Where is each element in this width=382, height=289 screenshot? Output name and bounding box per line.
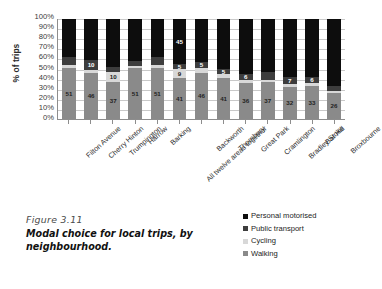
legend-label: Personal motorised [251, 212, 316, 220]
stacked-bar[interactable]: 633 [305, 19, 319, 119]
legend-swatch-icon [243, 214, 248, 219]
bar-value-label: 7 [288, 78, 291, 84]
stacked-bar[interactable]: 51 [62, 19, 76, 119]
y-tick-label: 60% [24, 53, 54, 60]
bar-segment-publict [151, 57, 165, 65]
bar-value-label: 32 [286, 100, 293, 106]
bar-value-label: 10 [88, 62, 95, 68]
stacked-bar[interactable]: 732 [283, 19, 297, 119]
chart-legend: Personal motorisedPublic transportCyclin… [243, 212, 351, 262]
bar-segment-personal [195, 19, 209, 62]
bar-slot: 455941 [168, 19, 190, 119]
bar-value-label: 41 [220, 96, 227, 102]
bar-segment-walking: 51 [62, 68, 76, 119]
bar-segment-walking: 51 [128, 68, 142, 119]
stacked-bar[interactable]: 1046 [84, 19, 98, 119]
stacked-bar[interactable]: 541 [217, 19, 231, 119]
stacked-bar[interactable]: 636 [239, 19, 253, 119]
bar-group: 511046103751514559415465416363773263326 [58, 19, 345, 119]
legend-item[interactable]: Walking [243, 250, 351, 258]
bar-segment-personal [84, 19, 98, 60]
bar-value-label: 41 [176, 96, 183, 102]
bar-segment-walking: 33 [305, 86, 319, 119]
bar-segment-personal [305, 19, 319, 77]
bar-value-label: 33 [308, 100, 315, 106]
bar-segment-personal [128, 19, 142, 61]
legend-item[interactable]: Personal motorised [243, 212, 351, 220]
bar-slot: 51 [58, 19, 80, 119]
bar-slot: 26 [323, 19, 345, 119]
bar-value-label: 51 [66, 91, 73, 97]
bar-segment-walking: 41 [173, 78, 187, 119]
bar-segment-publict [261, 72, 275, 80]
bar-segment-walking: 36 [239, 83, 253, 119]
bar-segment-cycling: 10 [106, 72, 120, 82]
bar-segment-walking: 46 [195, 73, 209, 119]
bar-segment-walking: 32 [283, 87, 297, 119]
bar-segment-walking: 37 [106, 82, 120, 119]
bar-segment-personal [62, 19, 76, 57]
stacked-bar[interactable]: 1037 [106, 19, 120, 119]
stacked-bar[interactable]: 546 [195, 19, 209, 119]
y-tick-label: 10% [24, 104, 54, 111]
stacked-bar[interactable]: 26 [327, 19, 341, 119]
bar-slot: 636 [235, 19, 257, 119]
bar-slot: 1037 [102, 19, 124, 119]
bar-slot: 51 [146, 19, 168, 119]
y-tick-label: 50% [24, 64, 54, 71]
x-axis-label: Barking [168, 124, 192, 147]
bar-segment-walking: 46 [84, 73, 98, 119]
bar-slot: 732 [279, 19, 301, 119]
legend-label: Walking [251, 250, 278, 258]
bar-value-label: 45 [176, 39, 183, 45]
bar-segment-personal [327, 19, 341, 86]
bar-value-label: 10 [110, 74, 117, 80]
bar-segment-cycling: 9 [173, 69, 187, 78]
bar-segment-publict: 7 [283, 77, 297, 84]
y-axis-tick-labels: 100%90%80%70%60%50%40%30%20%10%0% [24, 16, 54, 120]
bar-slot: 633 [301, 19, 323, 119]
bar-segment-publict: 10 [84, 60, 98, 70]
bar-value-label: 26 [331, 103, 338, 109]
bar-segment-personal [261, 19, 275, 72]
bar-segment-personal [106, 19, 120, 67]
bar-slot: 37 [257, 19, 279, 119]
bar-slot: 51 [124, 19, 146, 119]
stacked-bar[interactable]: 51 [128, 19, 142, 119]
y-tick-label: 80% [24, 33, 54, 40]
bar-value-label: 51 [154, 91, 161, 97]
legend-swatch-icon [243, 226, 248, 231]
figure-caption: Figure 3.11 Modal choice for local trips… [26, 214, 216, 253]
bar-segment-personal: 45 [173, 19, 187, 64]
bar-value-label: 51 [132, 91, 139, 97]
bar-segment-personal [151, 19, 165, 57]
stacked-bar[interactable]: 37 [261, 19, 275, 119]
bar-slot: 546 [190, 19, 212, 119]
bar-segment-walking: 51 [151, 68, 165, 119]
legend-swatch-icon [243, 251, 248, 256]
bar-value-label: 37 [264, 98, 271, 104]
y-tick-label: 30% [24, 84, 54, 91]
legend-item[interactable]: Cycling [243, 237, 351, 245]
legend-swatch-icon [243, 239, 248, 244]
stacked-bar[interactable]: 51 [151, 19, 165, 119]
bar-segment-personal [217, 19, 231, 69]
stacked-bar[interactable]: 455941 [173, 19, 187, 119]
y-axis-title: % of trips [11, 31, 21, 95]
plot-area: 511046103751514559415465416363773263326 [57, 19, 345, 120]
y-tick-label: 100% [24, 13, 54, 20]
bar-segment-walking: 26 [327, 93, 341, 119]
bar-segment-walking: 41 [217, 78, 231, 119]
y-tick-label: 40% [24, 74, 54, 81]
y-tick-label: 20% [24, 94, 54, 101]
bar-value-label: 36 [242, 98, 249, 104]
bar-slot: 541 [213, 19, 235, 119]
bar-value-label: 9 [178, 71, 181, 77]
bar-slot: 1046 [80, 19, 102, 119]
y-tick-label: 0% [24, 114, 54, 121]
legend-item[interactable]: Public transport [243, 225, 351, 233]
y-tick-label: 70% [24, 43, 54, 50]
figure-title: Modal choice for local trips, by neighbo… [26, 228, 216, 253]
bar-value-label: 46 [88, 93, 95, 99]
bar-value-label: 37 [110, 98, 117, 104]
